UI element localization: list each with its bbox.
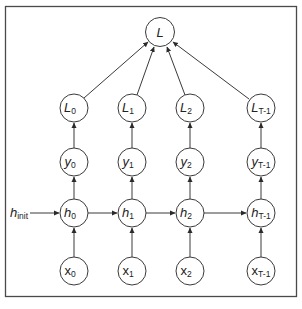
edge-L1-to-L (137, 47, 154, 95)
rnn-diagram: L hinit L0 y0 h0 x0 L1 y1 (0, 0, 302, 309)
svg-text:L: L (156, 25, 163, 40)
output-node-last: yT-1 (247, 148, 275, 176)
loss-aggregation-edges (84, 42, 249, 99)
hidden-node-1: h1 (118, 199, 146, 227)
output-node-0: y0 (60, 148, 88, 176)
input-node-last: xT-1 (247, 257, 275, 285)
input-node-0: x0 (60, 257, 88, 285)
edge-L2-to-L (167, 47, 185, 95)
input-node-1: x1 (118, 257, 146, 285)
loss-node-2: L2 (176, 94, 204, 122)
hidden-node-0: h0 (60, 199, 88, 227)
vertical-edges (74, 123, 261, 257)
total-loss-node: L (146, 18, 175, 47)
loss-node-0: L0 (60, 94, 88, 122)
output-node-1: y1 (118, 148, 146, 176)
hidden-node-2: h2 (176, 199, 204, 227)
output-node-2: y2 (176, 148, 204, 176)
input-node-2: x2 (176, 257, 204, 285)
edge-LT1-to-L (173, 42, 249, 99)
h-init-label: hinit (10, 205, 29, 221)
loss-node-1: L1 (118, 94, 146, 122)
loss-node-last: LT-1 (247, 94, 275, 122)
hidden-node-last: hT-1 (247, 199, 275, 227)
